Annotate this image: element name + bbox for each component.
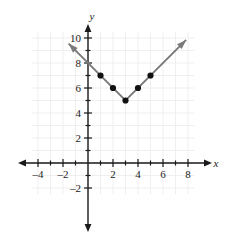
data-point [97, 72, 103, 78]
y-axis-label: y [89, 10, 95, 22]
graph-figure: –4–22468–2246810 x y [0, 0, 231, 238]
y-tick-label: 8 [76, 57, 82, 69]
data-point [135, 85, 141, 91]
y-tick-label: 4 [76, 107, 82, 119]
x-tick-label: 4 [135, 168, 141, 180]
data-point [110, 85, 116, 91]
x-tick-label: –2 [57, 168, 69, 180]
y-tick-label: 6 [76, 82, 82, 94]
y-tick-label: 10 [70, 32, 82, 44]
x-tick-label: 6 [160, 168, 166, 180]
x-axis-label: x [213, 157, 219, 169]
x-tick-label: 2 [110, 168, 116, 180]
x-tick-label: 8 [185, 168, 191, 180]
y-tick-label: –2 [69, 182, 81, 194]
x-tick-label: –4 [32, 168, 45, 180]
data-point [147, 72, 153, 78]
data-point [122, 97, 128, 103]
y-tick-label: 2 [76, 132, 82, 144]
coordinate-plane-svg: –4–22468–2246810 x y [0, 0, 231, 238]
plot-background [0, 0, 231, 238]
